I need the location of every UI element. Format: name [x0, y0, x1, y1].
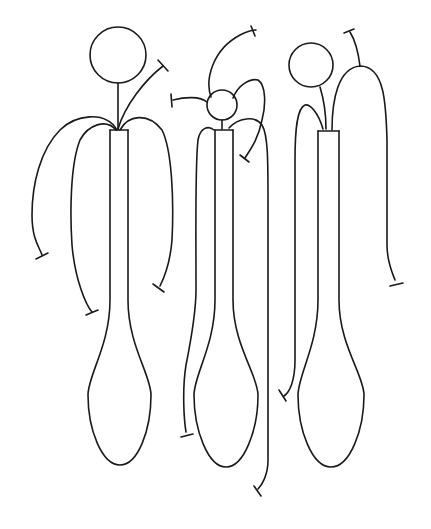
diagram-canvas — [0, 0, 431, 529]
arm-line — [173, 98, 207, 102]
head-circle — [289, 43, 333, 87]
arm-end-cap — [171, 94, 172, 107]
stalk-body — [88, 130, 151, 465]
arm-end-cap — [153, 284, 164, 292]
stalk-body — [194, 130, 258, 467]
arm-line — [350, 32, 360, 66]
cell-diagram — [0, 0, 431, 529]
arm-line — [118, 66, 163, 129]
arm-end-cap — [181, 434, 193, 437]
figure-2 — [171, 26, 268, 496]
arm-line — [184, 128, 214, 432]
arm-line — [229, 119, 268, 489]
arm-line — [32, 117, 117, 255]
head-circle — [90, 27, 146, 83]
arm-end-cap — [344, 29, 354, 33]
arm-line — [332, 66, 395, 280]
arm-end-cap — [390, 283, 403, 286]
stalk-body — [298, 131, 364, 467]
arm-end-cap — [240, 155, 249, 162]
arm-line — [284, 105, 323, 396]
head-circle — [207, 90, 237, 120]
arm-line — [209, 30, 256, 97]
figure-3 — [279, 29, 403, 467]
figure-1 — [32, 27, 173, 465]
